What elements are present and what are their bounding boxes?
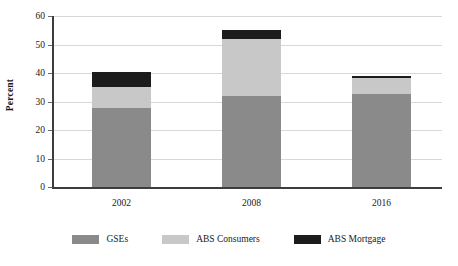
legend-swatch <box>162 235 189 244</box>
legend-item[interactable]: ABS Consumers <box>162 234 260 244</box>
y-axis-tick-label: 50 <box>36 40 46 50</box>
bar-stack <box>222 30 281 187</box>
chart-legend: GSEsABS ConsumersABS Mortgage <box>0 234 458 244</box>
y-axis-line <box>52 16 54 189</box>
x-axis-tick-label: 2016 <box>372 198 391 208</box>
bar-segment[interactable] <box>222 39 281 96</box>
legend-swatch <box>294 235 321 244</box>
bar-segment[interactable] <box>92 72 151 87</box>
y-axis-tick-label: 20 <box>36 125 46 135</box>
tick-mark <box>48 16 52 17</box>
tick-mark <box>48 102 52 103</box>
legend-swatch <box>72 235 99 244</box>
tick-mark <box>48 187 52 188</box>
bar-stack <box>352 76 411 187</box>
bar-group[interactable]: 2008 <box>222 30 281 187</box>
bar-group[interactable]: 2016 <box>352 76 411 187</box>
tick-mark <box>48 73 52 74</box>
bar-segment[interactable] <box>92 108 151 187</box>
x-axis-tick-label: 2002 <box>112 198 131 208</box>
legend-label: ABS Consumers <box>196 234 260 244</box>
x-axis-tick-label: 2008 <box>242 198 261 208</box>
gridline <box>54 16 442 17</box>
y-axis-tick-label: 60 <box>36 11 46 21</box>
legend-label: ABS Mortgage <box>328 234 386 244</box>
tick-mark <box>48 130 52 131</box>
legend-item[interactable]: GSEs <box>72 234 128 244</box>
y-axis-tick-label: 30 <box>36 97 46 107</box>
bar-segment[interactable] <box>222 30 281 39</box>
y-axis-tick-label: 10 <box>36 154 46 164</box>
legend-item[interactable]: ABS Mortgage <box>294 234 386 244</box>
x-axis-line <box>52 187 442 189</box>
bar-group[interactable]: 2002 <box>92 72 151 187</box>
tick-mark <box>48 159 52 160</box>
stacked-bar-chart: Percent 0102030405060 200220082016 GSEsA… <box>0 0 458 266</box>
bar-segment[interactable] <box>92 87 151 108</box>
plot-area: 0102030405060 200220082016 <box>52 16 442 189</box>
bar-segment[interactable] <box>222 96 281 187</box>
legend-label: GSEs <box>106 234 128 244</box>
y-axis-title-label: Percent <box>5 79 15 111</box>
bar-segment[interactable] <box>352 94 411 187</box>
tick-mark <box>48 45 52 46</box>
y-axis-tick-label: 40 <box>36 68 46 78</box>
y-axis-title: Percent <box>2 0 18 190</box>
y-axis-tick-label: 0 <box>40 182 45 192</box>
bar-segment[interactable] <box>352 78 411 95</box>
bar-stack <box>92 72 151 187</box>
